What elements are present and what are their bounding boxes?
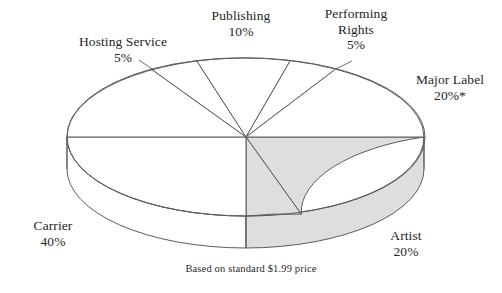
performing-rights-label-pct: 5%: [311, 37, 401, 53]
slice-label-publishing: Publishing 10%: [199, 8, 283, 39]
hosting-service-label-name: Hosting Service: [79, 34, 167, 49]
major-label-label-pct: 20%*: [402, 88, 498, 104]
slice-label-performing-rights: Performing Rights 5%: [311, 6, 401, 53]
carrier-label-name: Carrier: [34, 218, 73, 233]
pie-chart-figure: Publishing 10% Performing Rights 5% Host…: [0, 0, 502, 293]
slice-label-carrier: Carrier 40%: [14, 218, 92, 249]
slice-label-major-label: Major Label 20%*: [402, 72, 498, 103]
publishing-label-name: Publishing: [212, 8, 271, 23]
publishing-label-pct: 10%: [199, 24, 283, 40]
artist-label-pct: 20%: [370, 244, 442, 260]
slice-label-hosting-service: Hosting Service 5%: [62, 34, 184, 65]
slice-label-artist: Artist 20%: [370, 228, 442, 259]
performing-rights-leader-line: [336, 61, 352, 69]
carrier-label-pct: 40%: [14, 234, 92, 250]
performing-rights-label-name-line2: Rights: [311, 22, 401, 38]
major-label-label-name: Major Label: [416, 72, 484, 87]
hosting-service-label-pct: 5%: [62, 50, 184, 66]
chart-caption: Based on standard $1.99 price: [121, 263, 381, 274]
performing-rights-label-name-line1: Performing: [325, 6, 388, 21]
artist-label-name: Artist: [390, 228, 421, 243]
